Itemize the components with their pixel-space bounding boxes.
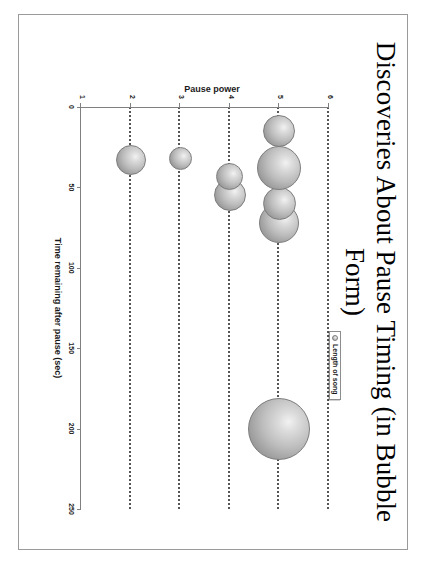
bubble-point[interactable] [216, 163, 243, 190]
x-tick-label: 200 [68, 409, 75, 449]
x-tick-label: 50 [68, 167, 75, 207]
x-tick-label: 250 [68, 489, 75, 529]
bubble-chart: 050100150200250123456 Time remaining aft… [59, 71, 329, 523]
x-tick [77, 509, 81, 510]
x-axis-title: Time remaining after pause (sec) [53, 107, 63, 509]
x-tick [77, 107, 81, 108]
y-tick-label: 1 [79, 79, 86, 99]
y-tick [328, 103, 329, 107]
y-tick [80, 103, 81, 107]
bubble-point[interactable] [263, 187, 296, 220]
gridline-row-6 [327, 107, 329, 509]
chart-legend[interactable]: Length of song [329, 331, 341, 400]
page-title: Discoveries About Pause Timing (in Bubbl… [339, 15, 401, 549]
bubble-point[interactable] [169, 147, 192, 170]
x-tick-label: 0 [68, 87, 75, 127]
bubble-point[interactable] [116, 145, 146, 175]
y-tick-label: 2 [129, 79, 136, 99]
y-axis-line [81, 107, 329, 108]
bubble-point[interactable] [248, 398, 310, 460]
y-tick [130, 103, 131, 107]
bubble-point[interactable] [257, 146, 301, 190]
x-tick [77, 268, 81, 269]
y-tick-label: 6 [327, 79, 334, 99]
x-axis-line [80, 107, 81, 509]
y-axis-title: Pause power [142, 84, 282, 94]
legend-label: Length of song [332, 344, 339, 395]
bubble-point[interactable] [263, 115, 295, 147]
x-tick [77, 348, 81, 349]
x-tick [77, 187, 81, 188]
x-tick-label: 150 [68, 328, 75, 368]
bubble-marker-icon [333, 335, 339, 341]
x-tick-label: 100 [68, 248, 75, 288]
plot-canvas [81, 107, 329, 509]
page: Discoveries About Pause Timing (in Bubbl… [0, 0, 432, 566]
y-tick [229, 103, 230, 107]
slide-content: Discoveries About Pause Timing (in Bubbl… [19, 15, 407, 549]
y-tick [278, 103, 279, 107]
y-tick [179, 103, 180, 107]
x-tick [77, 429, 81, 430]
